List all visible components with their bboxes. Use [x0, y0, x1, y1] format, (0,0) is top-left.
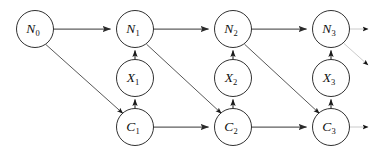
edge-group-diagonal: [46, 44, 320, 113]
node-c1[interactable]: C1: [117, 109, 154, 146]
node-n3[interactable]: N3: [313, 11, 350, 48]
node-n0[interactable]: N0: [17, 11, 54, 48]
node-x1[interactable]: X1: [117, 60, 154, 97]
edge-n1-c2: [147, 44, 222, 113]
node-x2[interactable]: X2: [215, 60, 252, 97]
edge-n2-c3: [245, 44, 320, 113]
node-c2[interactable]: C2: [215, 109, 252, 146]
node-n2[interactable]: N2: [215, 11, 252, 48]
node-c3[interactable]: C3: [313, 109, 350, 146]
node-x3[interactable]: X3: [313, 60, 350, 97]
node-n1[interactable]: N1: [117, 11, 154, 48]
edge-n3-diagonal-out: [344, 44, 368, 66]
graph-canvas: N0 N1 N2 N3 X1 X2: [0, 0, 387, 155]
edge-n0-c1: [46, 44, 124, 113]
graph-diagram: N0 N1 N2 N3 X1 X2: [0, 0, 387, 155]
